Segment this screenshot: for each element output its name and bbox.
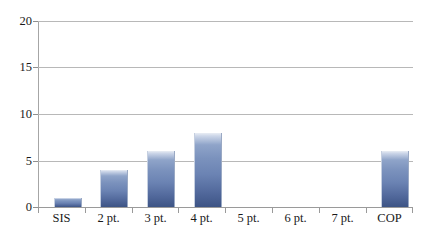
y-tick-label-5: 5 — [2, 155, 32, 168]
x-label-cop: COP — [366, 212, 413, 226]
x-label-7pt: 7 pt. — [319, 212, 366, 226]
bar-cop — [381, 151, 409, 207]
y-tick-label-20: 20 — [2, 15, 32, 28]
y-tick-label-10: 10 — [2, 108, 32, 121]
gridline-5 — [38, 161, 413, 162]
bar-3pt — [147, 151, 175, 207]
bar-sis — [54, 198, 82, 207]
x-label-5pt: 5 pt. — [225, 212, 272, 226]
y-tick-label-0: 0 — [2, 201, 32, 214]
x-label-6pt: 6 pt. — [272, 212, 319, 226]
plot-area — [38, 21, 413, 207]
x-label-sis: SIS — [38, 212, 85, 226]
x-label-4pt: 4 pt. — [178, 212, 225, 226]
bar-4pt — [194, 133, 222, 207]
x-label-2pt: 2 pt. — [85, 212, 132, 226]
y-axis-labels: 20 15 10 5 0 — [0, 0, 32, 236]
bar-chart: 20 15 10 5 0 SIS 2 pt. 3 pt. 4 pt. — [0, 0, 431, 236]
gridline-15 — [38, 67, 413, 68]
gridline-10 — [38, 114, 413, 115]
y-tick-label-15: 15 — [2, 61, 32, 74]
gridline-20 — [38, 21, 413, 22]
bar-2pt — [100, 170, 128, 207]
x-label-3pt: 3 pt. — [132, 212, 179, 226]
